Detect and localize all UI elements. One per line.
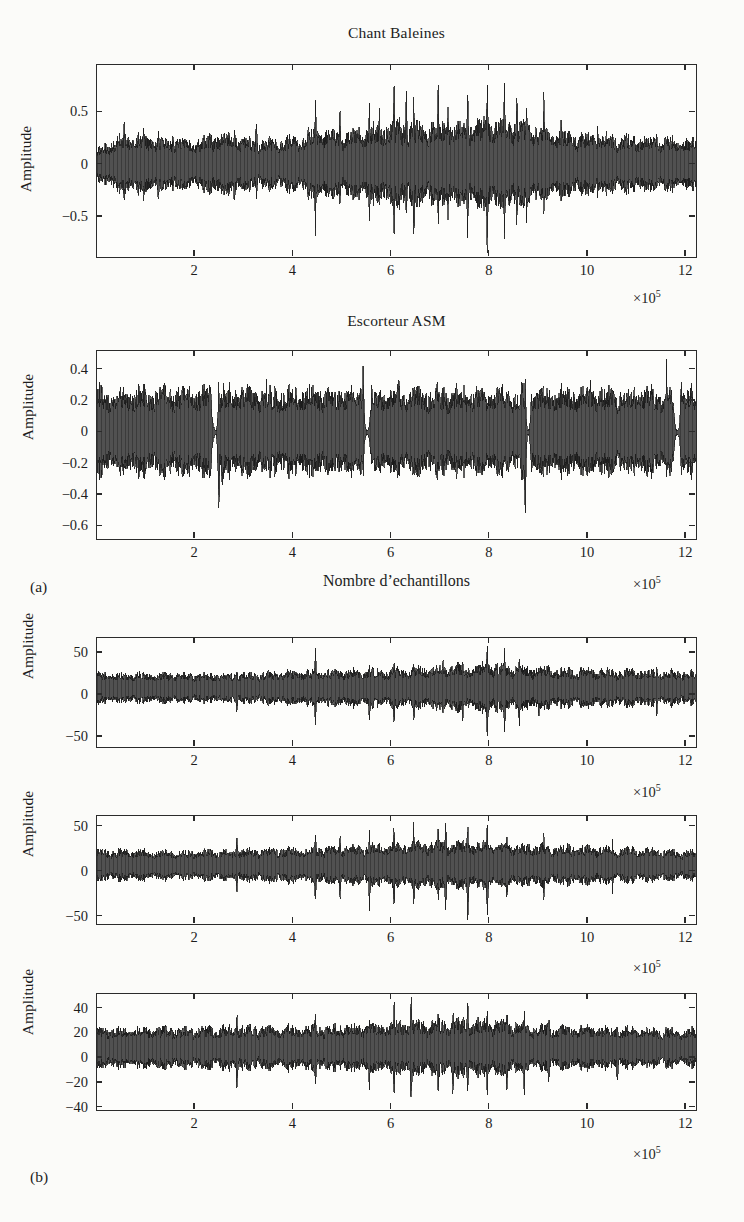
x-tick-mark xyxy=(684,1103,685,1109)
x-tick-mark xyxy=(292,993,293,999)
x-tick-mark xyxy=(488,917,489,923)
y-tick-mark xyxy=(96,525,102,526)
x-tick-mark xyxy=(586,532,587,538)
x-tick-mark xyxy=(193,993,194,999)
x-tick-mark xyxy=(390,917,391,923)
y-tick-label: 0.5 xyxy=(34,103,88,120)
y-tick-mark xyxy=(689,915,695,916)
panel-1-plot-area xyxy=(96,64,697,258)
x-tick-mark xyxy=(193,64,194,70)
subfigure-label-b: (b) xyxy=(30,1168,48,1186)
x-tick-mark xyxy=(390,740,391,746)
y-tick-mark xyxy=(96,215,102,216)
x-tick-mark xyxy=(193,350,194,356)
x-tick-mark xyxy=(684,637,685,643)
x-tick-mark xyxy=(390,815,391,821)
y-tick-mark xyxy=(96,1106,102,1107)
x-tick-label: 10 xyxy=(580,544,595,561)
x-tick-mark xyxy=(292,250,293,256)
y-tick-mark xyxy=(96,462,102,463)
x-tick-mark xyxy=(292,637,293,643)
panel-4-x-exponent: ×105 xyxy=(633,958,661,977)
y-tick-mark xyxy=(96,111,102,112)
x-tick-mark xyxy=(292,917,293,923)
x-tick-mark xyxy=(390,64,391,70)
x-tick-label: 12 xyxy=(678,1115,693,1132)
x-tick-label: 12 xyxy=(678,544,693,561)
y-tick-label: 0 xyxy=(34,862,88,879)
y-tick-label: 0 xyxy=(34,1049,88,1066)
x-axis-label: Nombre d’echantillons xyxy=(96,572,697,590)
x-tick-label: 6 xyxy=(387,929,394,946)
y-tick-label: −0.2 xyxy=(34,454,88,471)
x-tick-label: 12 xyxy=(678,929,693,946)
x-tick-label: 4 xyxy=(289,544,296,561)
panel-2-plot-area xyxy=(96,350,697,540)
y-tick-mark xyxy=(689,462,695,463)
y-tick-mark xyxy=(689,1056,695,1057)
x-tick-mark xyxy=(684,993,685,999)
y-tick-mark xyxy=(689,525,695,526)
y-tick-label: −40 xyxy=(34,1098,88,1115)
y-tick-mark xyxy=(96,399,102,400)
x-tick-mark xyxy=(586,637,587,643)
x-tick-mark xyxy=(684,740,685,746)
y-tick-mark xyxy=(689,399,695,400)
panel-1-ylabel: Amplitude xyxy=(17,89,35,229)
x-tick-mark xyxy=(586,1103,587,1109)
y-tick-mark xyxy=(689,1081,695,1082)
x-tick-mark xyxy=(586,993,587,999)
x-tick-mark xyxy=(390,1103,391,1109)
x-tick-mark xyxy=(586,350,587,356)
x-tick-mark xyxy=(488,1103,489,1109)
y-tick-mark xyxy=(689,493,695,494)
x-tick-mark xyxy=(684,350,685,356)
x-tick-label: 2 xyxy=(191,1115,198,1132)
x-tick-label: 12 xyxy=(678,752,693,769)
x-tick-mark xyxy=(488,637,489,643)
x-tick-label: 6 xyxy=(387,752,394,769)
y-tick-mark xyxy=(96,1081,102,1082)
y-tick-mark xyxy=(96,915,102,916)
x-tick-label: 2 xyxy=(191,752,198,769)
y-tick-mark xyxy=(96,735,102,736)
y-tick-mark xyxy=(96,163,102,164)
x-tick-mark xyxy=(292,350,293,356)
x-tick-label: 2 xyxy=(191,929,198,946)
x-tick-mark xyxy=(586,740,587,746)
x-tick-mark xyxy=(193,637,194,643)
x-tick-mark xyxy=(586,64,587,70)
panel-2-title: Escorteur ASM xyxy=(96,312,697,330)
y-tick-mark xyxy=(689,431,695,432)
x-tick-label: 6 xyxy=(387,1115,394,1132)
x-tick-mark xyxy=(488,250,489,256)
y-tick-label: 40 xyxy=(34,999,88,1016)
x-tick-mark xyxy=(292,740,293,746)
x-tick-mark xyxy=(292,1103,293,1109)
y-tick-mark xyxy=(96,1007,102,1008)
y-tick-label: −50 xyxy=(34,907,88,924)
x-tick-mark xyxy=(390,532,391,538)
y-tick-label: 0 xyxy=(34,155,88,172)
y-tick-label: 0 xyxy=(34,423,88,440)
panel-2-x-exponent: ×105 xyxy=(633,574,661,593)
x-tick-label: 12 xyxy=(678,262,693,279)
x-tick-mark xyxy=(488,993,489,999)
y-tick-label: −0.6 xyxy=(34,517,88,534)
x-tick-label: 8 xyxy=(485,1115,492,1132)
x-tick-mark xyxy=(684,64,685,70)
panel-5-plot-area xyxy=(96,993,697,1111)
x-tick-mark xyxy=(390,637,391,643)
x-tick-mark xyxy=(488,350,489,356)
panel-5-x-exponent: ×105 xyxy=(633,1144,661,1163)
x-tick-label: 8 xyxy=(485,752,492,769)
y-tick-mark xyxy=(689,1106,695,1107)
y-tick-mark xyxy=(689,111,695,112)
y-tick-mark xyxy=(689,870,695,871)
panel-3-x-exponent: ×105 xyxy=(633,782,661,801)
x-tick-mark xyxy=(586,250,587,256)
figure-root: Chant Baleines Amplitude ×105 Escorteur … xyxy=(0,0,744,1222)
y-tick-label: −50 xyxy=(34,727,88,744)
panel-3-plot-area xyxy=(96,637,697,748)
y-tick-label: 0.4 xyxy=(34,360,88,377)
